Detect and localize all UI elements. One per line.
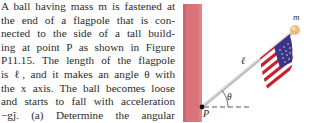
- angle-label: θ: [227, 92, 232, 102]
- pivot-label: P: [203, 108, 209, 119]
- ball: [290, 25, 300, 35]
- flagpole-figure: m ℓ θ P: [0, 0, 310, 123]
- mass-label: m: [293, 12, 300, 22]
- flag: [255, 30, 305, 97]
- length-label: ℓ: [241, 55, 245, 66]
- flagpole-diagram: [0, 0, 310, 123]
